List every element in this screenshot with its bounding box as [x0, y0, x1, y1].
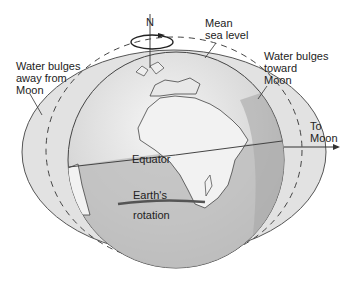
bulge-away-label: Water bulges away from Moon	[16, 60, 80, 96]
north-label: N	[146, 16, 154, 28]
rotation-label-top: Earth's	[133, 189, 167, 201]
tide-diagram	[0, 0, 354, 281]
bulge-toward-label: Water bulges toward Moon	[264, 50, 328, 86]
rotation-label-bottom: rotation	[133, 209, 170, 221]
equator-label: Equator	[132, 153, 171, 165]
mean-sea-level-label: Mean sea level	[205, 17, 248, 41]
to-moon-label: To Moon	[310, 120, 338, 144]
